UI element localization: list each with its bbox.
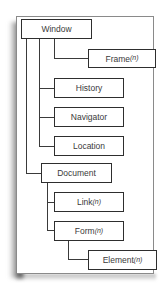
node-history: History bbox=[54, 78, 124, 98]
node-label: Document bbox=[57, 168, 96, 178]
node-label: Navigator bbox=[71, 112, 107, 122]
node-navigator: Navigator bbox=[54, 107, 124, 127]
node-frame: Frame(n) bbox=[88, 49, 156, 68]
node-form: Form(n) bbox=[54, 221, 124, 241]
connector-history bbox=[39, 88, 54, 89]
node-link: Link(n) bbox=[54, 192, 124, 212]
connector-frame-horizontal bbox=[54, 58, 88, 59]
node-label: Frame bbox=[105, 54, 130, 64]
connector-window-document-vertical bbox=[26, 39, 27, 174]
node-label: Window bbox=[41, 24, 71, 34]
node-label: History bbox=[76, 83, 102, 93]
node-location: Location bbox=[54, 136, 124, 156]
node-element: Element(n) bbox=[88, 250, 157, 270]
connector-link bbox=[47, 202, 54, 203]
connector-location bbox=[39, 146, 54, 147]
node-label: Link bbox=[77, 197, 93, 207]
multiplicity-badge: (n) bbox=[93, 198, 102, 205]
node-window: Window bbox=[21, 19, 92, 39]
node-document: Document bbox=[41, 163, 112, 183]
panel-shadow-bottom bbox=[16, 274, 156, 281]
connector-element-horizontal bbox=[68, 259, 88, 260]
node-label: Element bbox=[103, 255, 134, 265]
connector-window-document-horizontal bbox=[26, 173, 41, 174]
multiplicity-badge: (n) bbox=[95, 227, 104, 234]
multiplicity-badge: (n) bbox=[130, 54, 139, 61]
node-label: Form bbox=[75, 226, 95, 236]
connector-element-vertical bbox=[68, 240, 69, 260]
connector-window-children-vertical bbox=[39, 39, 40, 146]
connector-navigator bbox=[39, 117, 54, 118]
node-label: Location bbox=[73, 141, 105, 151]
connector-frame-vertical bbox=[54, 39, 55, 59]
connector-form bbox=[47, 230, 54, 231]
connector-document-children-vertical bbox=[47, 183, 48, 231]
multiplicity-badge: (n) bbox=[134, 256, 143, 263]
